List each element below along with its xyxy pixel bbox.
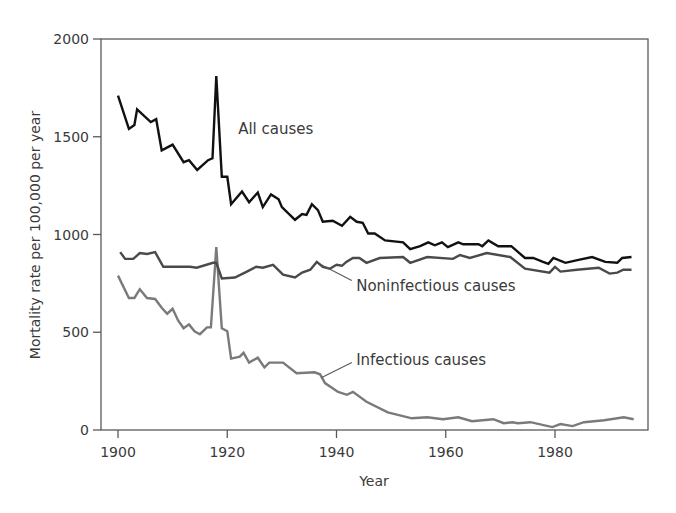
x-tick-label: 1960 [428,444,464,460]
y-tick-label: 2000 [53,31,89,47]
x-axis-ticks: 19001920194019601980 [100,430,573,460]
x-tick-label: 1920 [209,444,245,460]
series-label-infectious-causes: Infectious causes [356,351,486,369]
y-axis-ticks: 0500100015002000 [53,31,101,438]
y-tick-label: 1000 [53,227,89,243]
series-line-infectious-causes [118,247,634,427]
x-tick-label: 1940 [319,444,355,460]
series-label-noninfectious-causes: Noninfectious causes [356,277,516,295]
series-lines [118,76,634,427]
series-labels: All causesNoninfectious causesInfectious… [238,120,516,378]
series-line-noninfectious-causes [120,252,631,278]
label-leader-noninfectious-causes [321,265,352,281]
x-axis-label: Year [358,473,389,489]
series-label-all-causes: All causes [238,120,313,138]
x-tick-label: 1980 [537,444,573,460]
y-tick-label: 0 [80,422,89,438]
mortality-line-chart: 0500100015002000 19001920194019601980 Al… [0,0,676,513]
x-tick-label: 1900 [100,444,136,460]
y-axis-label: Mortality rate per 100,000 per year [27,111,43,360]
label-leader-infectious-causes [322,363,352,378]
series-line-all-causes [118,76,632,264]
y-tick-label: 500 [62,324,89,340]
y-tick-label: 1500 [53,129,89,145]
